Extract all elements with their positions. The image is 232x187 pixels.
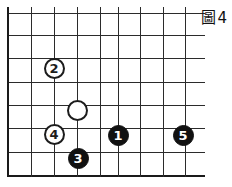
stone-move-number: 4 xyxy=(49,127,58,140)
stone-move-number: 5 xyxy=(178,128,187,141)
go-diagram-figure: 24315 圖4 xyxy=(0,0,232,187)
grid-line-horizontal xyxy=(7,105,205,106)
grid-line-vertical xyxy=(163,7,164,177)
grid-line-horizontal xyxy=(7,35,205,36)
stone-white-2[interactable]: 2 xyxy=(44,58,65,79)
grid-line-horizontal xyxy=(7,58,205,59)
board-edge-left xyxy=(7,7,9,177)
grid-line-vertical xyxy=(118,7,119,177)
grid-line-vertical xyxy=(54,7,55,177)
grid-line-vertical xyxy=(140,7,141,177)
stone-white-4[interactable]: 4 xyxy=(44,124,65,145)
stone-move-number: 2 xyxy=(49,61,58,74)
grid-line-horizontal xyxy=(7,152,205,153)
grid-line-horizontal xyxy=(7,13,205,14)
stone-white-unmarked[interactable] xyxy=(67,100,88,121)
grid-line-vertical xyxy=(100,7,101,177)
stone-black-1[interactable]: 1 xyxy=(108,125,129,146)
board-edge-bottom xyxy=(7,175,205,177)
stone-black-3[interactable]: 3 xyxy=(68,148,89,169)
stone-black-5[interactable]: 5 xyxy=(173,125,194,146)
grid-line-vertical xyxy=(185,7,186,177)
stone-move-number: 3 xyxy=(73,151,82,164)
figure-caption: 圖4 xyxy=(201,6,228,27)
stone-move-number: 1 xyxy=(113,128,122,141)
go-board: 24315 xyxy=(0,0,232,187)
grid-line-horizontal xyxy=(7,82,205,83)
grid-line-vertical xyxy=(31,7,32,177)
